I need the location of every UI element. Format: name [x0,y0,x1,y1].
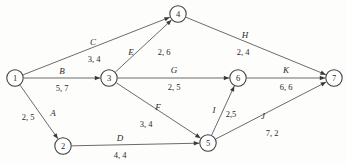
node-label-7: 7 [332,73,336,83]
arrowhead-B [95,76,100,80]
edge-weight-I: 2,5 [226,109,237,119]
arrowhead-I [230,86,234,92]
edge-name-A: A [49,108,56,118]
node-6[interactable]: 6 [230,70,246,86]
edge-name-I: I [212,105,217,115]
node-label-2: 2 [61,141,65,151]
node-label-5: 5 [206,138,210,148]
edge-line-D [72,143,199,146]
edge-name-H: H [241,30,249,40]
arrowhead-K [320,76,325,80]
arrowhead-F [195,133,201,138]
arrowhead-H [320,71,326,75]
nodes-layer: 1234567 [7,6,342,154]
edge-name-D: D [116,133,124,143]
arrowhead-D [194,141,199,145]
node-label-6: 6 [236,73,240,83]
edge-name-C: C [90,37,97,47]
edge-name-F: F [154,102,161,112]
edge-name-B: B [59,66,65,76]
edge-name-E: E [127,47,134,57]
node-label-3: 3 [107,73,111,83]
edge-weight-D: 4, 4 [114,150,128,160]
node-3[interactable]: 3 [101,70,117,86]
edge-weight-H: 2, 4 [237,47,251,57]
edge-weight-C: 3, 4 [88,54,102,64]
edge-weight-G: 2, 5 [168,82,181,92]
node-2[interactable]: 2 [55,138,71,154]
edge-weight-B: 5, 7 [56,83,69,93]
edge-weight-K: 6, 6 [280,82,293,92]
edge-name-G: G [171,65,178,75]
edge-name-K: K [282,65,290,75]
node-4[interactable]: 4 [170,6,186,22]
node-7[interactable]: 7 [326,70,342,86]
node-1[interactable]: 1 [7,70,23,86]
network-diagram-canvas: 1234567 A2, 5B5, 7C3, 4D4, 4E2, 6F3, 4G2… [0,0,347,165]
edge-line-C [23,17,170,75]
edge-name-J: J [261,111,266,121]
arrowhead-G [224,76,229,80]
node-5[interactable]: 5 [200,135,216,151]
edge-weight-E: 2, 6 [158,47,171,57]
network-diagram: 1234567 A2, 5B5, 7C3, 4D4, 4E2, 6F3, 4G2… [0,0,347,165]
edge-line-H [186,17,326,74]
edge-weight-A: 2, 5 [22,112,35,122]
arrowhead-C [164,17,170,21]
node-label-1: 1 [13,73,17,83]
arrowhead-A [53,133,58,139]
edge-weight-F: 3, 4 [140,119,154,129]
edge-weight-J: 7, 2 [266,128,279,138]
